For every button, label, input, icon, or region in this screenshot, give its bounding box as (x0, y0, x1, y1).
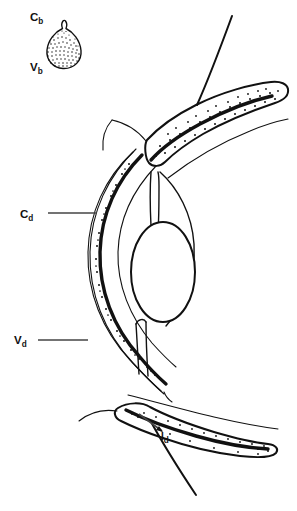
label-cd: Cd (20, 208, 33, 223)
upper-eyelid (145, 82, 288, 166)
label-cb: Cb (30, 11, 43, 26)
anatomical-diagram-svg: Cb Vb Cd Vd Id (0, 0, 297, 511)
lower-eyelid (115, 403, 277, 457)
lens (131, 222, 195, 322)
label-vb: Vb (30, 61, 43, 76)
label-vd: Vd (14, 334, 27, 349)
stippled-teardrop-inset (47, 20, 81, 68)
figure-root: Cb Vb Cd Vd Id (0, 0, 297, 511)
